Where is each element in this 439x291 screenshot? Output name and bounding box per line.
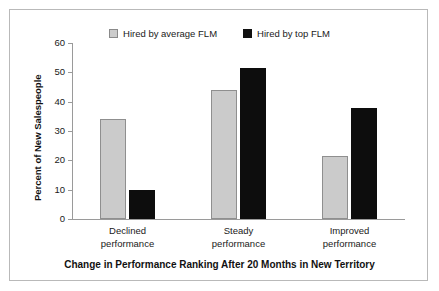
legend-label-top-flm: Hired by top FLM (257, 29, 330, 39)
bar-group (183, 43, 294, 219)
x-axis-category-label-line: Improved (294, 225, 405, 238)
y-axis-tick-label: 0 (60, 214, 65, 224)
x-axis-category-label-line: performance (183, 238, 294, 251)
x-axis-category-label: Improvedperformance (294, 225, 405, 250)
x-axis-line (72, 219, 405, 220)
legend-item-top-flm: Hired by top FLM (243, 29, 330, 39)
bar-top-flm[interactable] (240, 68, 266, 219)
bar-group (72, 43, 183, 219)
y-axis-title-text: Percent of New Salespeople (32, 74, 42, 201)
y-axis-tick-mark (68, 219, 72, 220)
bar-top-flm[interactable] (351, 108, 377, 219)
x-axis-category-label: Declinedperformance (72, 225, 183, 250)
x-axis-category-label-line: performance (72, 238, 183, 251)
chart-legend: Hired by average FLM Hired by top FLM (10, 29, 429, 39)
black-square-swatch (243, 29, 252, 38)
y-axis-title: Percent of New Salespeople (28, 55, 46, 220)
bar-top-flm[interactable] (129, 190, 155, 219)
gray-square-swatch (109, 29, 118, 38)
y-axis-tick-label: 40 (54, 97, 65, 107)
x-axis-category-label-line: Declined (72, 225, 183, 238)
plot-area: 6050403020100 DeclinedperformanceSteadyp… (72, 43, 405, 220)
y-axis-tick-label: 30 (54, 126, 65, 136)
bar-average-flm[interactable] (100, 119, 126, 219)
y-axis-tick-label: 50 (54, 68, 65, 78)
bar-average-flm[interactable] (322, 156, 348, 219)
legend-label-average-flm: Hired by average FLM (123, 29, 217, 39)
y-axis-tick-label: 20 (54, 156, 65, 166)
chart-figure: Hired by average FLM Hired by top FLM Pe… (9, 9, 428, 281)
x-axis-category-label: Steadyperformance (183, 225, 294, 250)
x-axis-category-label-line: performance (294, 238, 405, 251)
y-axis-tick-label: 60 (54, 38, 65, 48)
y-axis-tick-label: 10 (54, 185, 65, 195)
x-axis-category-label-line: Steady (183, 225, 294, 238)
x-axis-title: Change in Performance Ranking After 20 M… (10, 259, 429, 270)
bar-group (294, 43, 405, 219)
legend-item-average-flm: Hired by average FLM (109, 29, 217, 39)
bar-average-flm[interactable] (211, 90, 237, 219)
